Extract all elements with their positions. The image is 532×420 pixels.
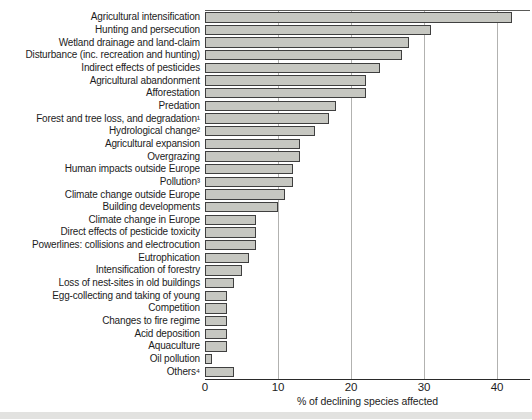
chart-row: Agricultural abandonment <box>0 74 532 87</box>
category-label: Building developments <box>0 202 205 212</box>
category-label: Agricultural abandonment <box>0 76 205 86</box>
category-label: Egg-collecting and taking of young <box>0 291 205 301</box>
category-label: Pollution³ <box>0 177 205 187</box>
category-label: Climate change in Europe <box>0 215 205 225</box>
chart-row: Egg-collecting and taking of young <box>0 289 532 302</box>
x-tick-label: 40 <box>491 381 504 393</box>
bar <box>205 354 212 364</box>
bar <box>205 367 234 377</box>
bar <box>205 215 256 225</box>
chart-row: Powerlines: collisions and electrocution <box>0 239 532 252</box>
category-label: Afforestation <box>0 88 205 98</box>
category-label: Others⁴ <box>0 367 205 377</box>
chart-row: Agricultural expansion <box>0 138 532 151</box>
chart-row: Changes to fire regime <box>0 315 532 328</box>
bar <box>205 291 227 301</box>
bar <box>205 50 402 60</box>
bar <box>205 151 300 161</box>
category-label: Disturbance (inc. recreation and hunting… <box>0 50 205 60</box>
bar <box>205 75 366 85</box>
bar <box>205 202 278 212</box>
bar <box>205 113 329 123</box>
bar <box>205 341 227 351</box>
category-label: Hydrological change² <box>0 126 205 136</box>
bar <box>205 88 366 98</box>
bar <box>205 139 300 149</box>
chart-row: Hydrological change² <box>0 125 532 138</box>
chart-row: Forest and tree loss, and degradation¹ <box>0 112 532 125</box>
bar <box>205 177 293 187</box>
chart-row: Overgrazing <box>0 150 532 163</box>
bar <box>205 278 234 288</box>
chart-row: Eutrophication <box>0 251 532 264</box>
chart-row: Predation <box>0 100 532 113</box>
x-tick-label: 0 <box>202 381 208 393</box>
chart-row: Climate change outside Europe <box>0 188 532 201</box>
chart-row: Direct effects of pesticide toxicity <box>0 226 532 239</box>
bar <box>205 63 380 73</box>
category-label: Climate change outside Europe <box>0 190 205 200</box>
category-label: Acid deposition <box>0 329 205 339</box>
category-label: Competition <box>0 303 205 313</box>
category-label: Indirect effects of pesticides <box>0 63 205 73</box>
bar <box>205 303 227 313</box>
category-label: Agricultural expansion <box>0 139 205 149</box>
category-label: Forest and tree loss, and degradation¹ <box>0 114 205 124</box>
chart-row: Disturbance (inc. recreation and hunting… <box>0 49 532 62</box>
category-label: Direct effects of pesticide toxicity <box>0 227 205 237</box>
bar <box>205 37 409 47</box>
chart-row: Building developments <box>0 201 532 214</box>
category-label: Loss of nest-sites in old buildings <box>0 278 205 288</box>
chart-row: Others⁴ <box>0 365 532 378</box>
chart-rows: Agricultural intensificationHunting and … <box>0 11 532 378</box>
chart-row: Oil pollution <box>0 353 532 366</box>
chart-row: Indirect effects of pesticides <box>0 62 532 75</box>
bottom-divider <box>0 412 532 419</box>
chart-row: Hunting and persecution <box>0 24 532 37</box>
bar <box>205 25 431 35</box>
bar <box>205 126 315 136</box>
chart-row: Afforestation <box>0 87 532 100</box>
category-label: Aquaculture <box>0 341 205 351</box>
bar-chart-figure: Agricultural intensificationHunting and … <box>0 0 532 420</box>
category-label: Eutrophication <box>0 253 205 263</box>
category-label: Intensification of forestry <box>0 265 205 275</box>
x-tick-label: 10 <box>272 381 285 393</box>
category-label: Agricultural intensification <box>0 12 205 22</box>
chart-row: Human impacts outside Europe <box>0 163 532 176</box>
category-label: Predation <box>0 101 205 111</box>
category-label: Wetland drainage and land-claim <box>0 38 205 48</box>
bar <box>205 316 227 326</box>
category-label: Oil pollution <box>0 354 205 364</box>
bar <box>205 189 285 199</box>
bar <box>205 253 249 263</box>
chart-row: Acid deposition <box>0 327 532 340</box>
category-label: Overgrazing <box>0 152 205 162</box>
bar <box>205 240 256 250</box>
chart-row: Climate change in Europe <box>0 214 532 227</box>
bar <box>205 227 256 237</box>
bar <box>205 164 293 174</box>
category-label: Powerlines: collisions and electrocution <box>0 240 205 250</box>
bar <box>205 12 512 22</box>
chart-row: Loss of nest-sites in old buildings <box>0 277 532 290</box>
bar <box>205 101 336 111</box>
category-label: Human impacts outside Europe <box>0 164 205 174</box>
chart-row: Competition <box>0 302 532 315</box>
x-tick-label: 30 <box>418 381 431 393</box>
chart-row: Pollution³ <box>0 176 532 189</box>
bar <box>205 265 242 275</box>
bar <box>205 329 227 339</box>
x-axis-label: % of declining species affected <box>205 395 530 407</box>
x-tick-label: 20 <box>345 381 358 393</box>
chart-row: Agricultural intensification <box>0 11 532 24</box>
category-label: Changes to fire regime <box>0 316 205 326</box>
chart-row: Wetland drainage and land-claim <box>0 36 532 49</box>
chart-row: Intensification of forestry <box>0 264 532 277</box>
chart-row: Aquaculture <box>0 340 532 353</box>
category-label: Hunting and persecution <box>0 25 205 35</box>
